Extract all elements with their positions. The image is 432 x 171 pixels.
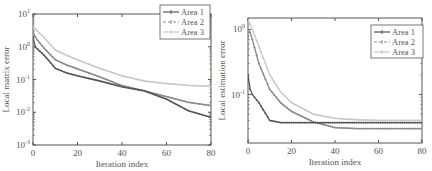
x-axis-label: Iteration index [96, 159, 149, 169]
y-tick-label: 10-2 [16, 106, 30, 117]
x-tick-label: 40 [118, 148, 128, 158]
series-line-area-1 [33, 37, 211, 117]
y-tick-label: 101 [18, 8, 30, 19]
legend-label: Area 1 [392, 27, 415, 37]
legend: Area 1Area 2Area 3 [371, 25, 423, 58]
chart-0-svg: 02040608010-310-210-1100101Iteration ind… [0, 0, 216, 171]
x-tick-label: 60 [162, 148, 172, 158]
series-group [32, 26, 212, 118]
legend-label: Area 2 [392, 37, 415, 47]
x-tick-label: 20 [287, 146, 297, 156]
local-matrix-error-chart: 02040608010-310-210-1100101Iteration ind… [0, 0, 216, 171]
x-tick-label: 60 [374, 146, 384, 156]
x-tick-label: 80 [207, 148, 217, 158]
y-tick-label: 10-1 [231, 89, 245, 100]
y-tick-label: 10-3 [16, 139, 30, 150]
legend-label: Area 3 [392, 47, 415, 57]
x-tick-label: 0 [246, 146, 251, 156]
series-line-area-2 [33, 31, 211, 105]
legend-label: Area 2 [181, 17, 204, 27]
y-axis-label: Local matrix error [1, 47, 11, 113]
legend: Area 1Area 2Area 3 [160, 5, 210, 39]
x-tick-label: 0 [31, 148, 36, 158]
legend-label: Area 1 [181, 7, 204, 17]
x-tick-label: 40 [331, 146, 341, 156]
x-tick-label: 80 [418, 146, 428, 156]
legend-label: Area 3 [181, 27, 204, 37]
y-tick-label: 100 [18, 41, 30, 52]
local-estimation-error-chart: 02040608010-1100Iteration indexLocal est… [216, 0, 432, 171]
x-axis-label: Iteration index [309, 157, 362, 167]
y-tick-label: 100 [233, 23, 245, 34]
x-tick-label: 20 [73, 148, 83, 158]
y-tick-label: 10-1 [16, 74, 30, 85]
y-axis-label: Local estimation error [217, 41, 227, 121]
chart-1-svg: 02040608010-1100Iteration indexLocal est… [216, 0, 432, 171]
